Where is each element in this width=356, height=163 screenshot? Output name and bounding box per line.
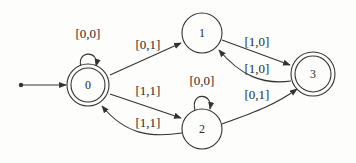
state-3: 3: [291, 52, 335, 96]
edge-2-2: [0,0]: [190, 73, 215, 110]
start-arrow: [19, 83, 66, 87]
state-label: 3: [310, 67, 316, 81]
state-1: 1: [182, 13, 222, 53]
state-2: 2: [182, 109, 222, 149]
edge-2-3: [0,1]: [222, 87, 297, 124]
edge-0-1: [0,1]: [110, 37, 181, 75]
state-label: 1: [199, 26, 205, 40]
edge-3-1: [1,0]: [219, 50, 291, 82]
edge-0-2: [1,1]: [110, 83, 181, 118]
state-label: 2: [199, 122, 205, 136]
edge-label: [0,0]: [190, 73, 215, 88]
state-label: 0: [85, 78, 91, 92]
edge-0-0: [0,0]: [76, 26, 101, 67]
state-0: 0: [67, 64, 109, 106]
edge-label: [0,1]: [245, 87, 270, 102]
edge-2-0: [1,1]: [102, 106, 182, 135]
edge-label: [1,1]: [136, 115, 161, 130]
automaton-diagram: [0,0] [0,1] [1,1] [1,1] [0,0] [1,0] [1,0…: [0, 0, 356, 163]
edge-label: [0,1]: [136, 37, 161, 52]
edge-label: [1,0]: [245, 34, 270, 49]
edge-label: [1,1]: [136, 83, 161, 98]
edge-label: [1,0]: [245, 61, 270, 76]
edge-label: [0,0]: [76, 26, 101, 41]
